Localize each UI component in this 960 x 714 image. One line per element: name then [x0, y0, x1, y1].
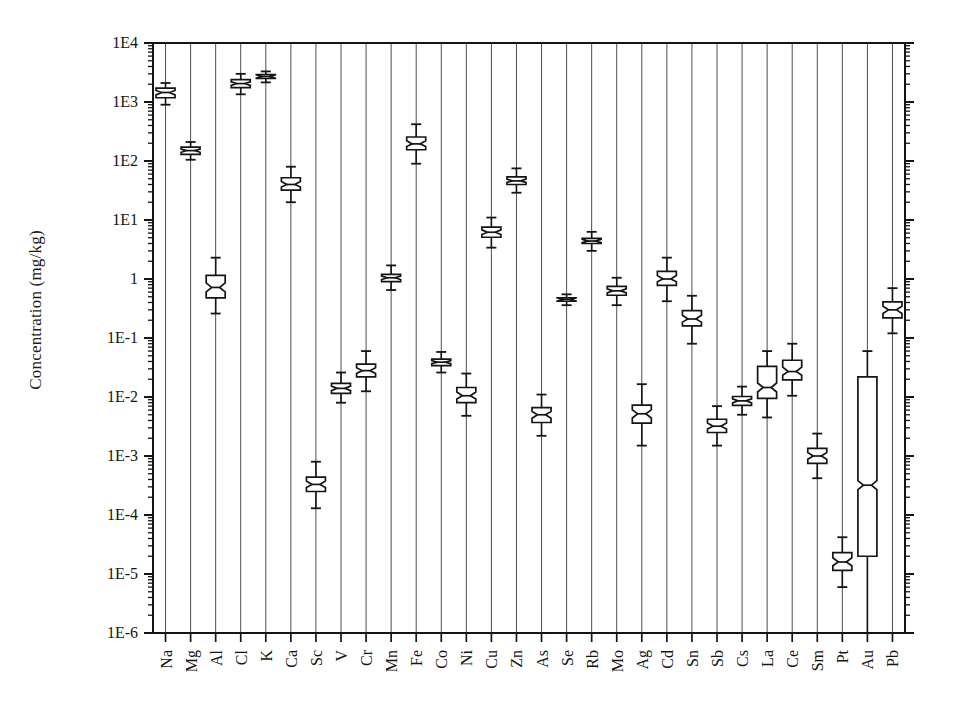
- box-plot-Cl[interactable]: [231, 74, 250, 94]
- box-body: [758, 366, 777, 398]
- y-axis-title: Concentration (mg/kg): [16, 0, 56, 620]
- box-plot-Sc[interactable]: [306, 462, 325, 509]
- x-tick-label-As: As: [534, 650, 551, 668]
- box-plot-Ni[interactable]: [457, 374, 476, 416]
- x-tick-label-Mg: Mg: [183, 650, 201, 672]
- y-tick-label: 1E-4: [107, 506, 138, 523]
- box-plot-Al[interactable]: [206, 258, 225, 314]
- y-tick-label: 1E4: [112, 34, 138, 51]
- box-body: [858, 377, 877, 556]
- y-tick-label: 1E-6: [107, 624, 138, 641]
- y-tick-label: 1E1: [112, 211, 138, 228]
- box-plot-Cs[interactable]: [733, 387, 752, 415]
- x-tick-label-Rb: Rb: [584, 650, 601, 669]
- box-body: [783, 360, 802, 380]
- y-axis-title-text: Concentration (mg/kg): [26, 230, 46, 390]
- x-tick-label-La: La: [759, 650, 776, 667]
- box-plot-Ag[interactable]: [632, 384, 651, 445]
- x-tick-label-Au: Au: [859, 650, 876, 670]
- box-plot-Mo[interactable]: [607, 278, 626, 305]
- box-plot-Cd[interactable]: [657, 258, 676, 302]
- x-tick-label-Cr: Cr: [358, 649, 375, 666]
- box-plot-La[interactable]: [758, 351, 777, 417]
- x-tick-label-Mo: Mo: [609, 650, 626, 672]
- box-plot-Sb[interactable]: [708, 406, 727, 445]
- box-plot-Ca[interactable]: [281, 167, 300, 203]
- grid-lines: [166, 43, 893, 633]
- box-plot-Pt[interactable]: [833, 537, 852, 587]
- x-tick-label-Pt: Pt: [834, 649, 851, 663]
- y-tick-label: 1E-2: [107, 388, 138, 405]
- x-tick-label-Zn: Zn: [508, 650, 525, 668]
- box-plot-Se[interactable]: [557, 294, 576, 305]
- y-axis-ticks: 1E-61E-51E-41E-31E-21E-111E11E21E31E4: [107, 34, 914, 641]
- box-plot-Au[interactable]: [858, 351, 877, 633]
- box-plot-Pb[interactable]: [883, 288, 902, 333]
- x-tick-label-Sm: Sm: [809, 649, 826, 671]
- x-tick-label-K: K: [258, 650, 275, 662]
- y-tick-label: 1E-5: [107, 565, 138, 582]
- box-plot-Cr[interactable]: [357, 351, 376, 391]
- box-plot-Co[interactable]: [432, 352, 451, 373]
- x-tick-label-Cs: Cs: [734, 650, 751, 667]
- x-tick-label-Ag: Ag: [634, 650, 652, 670]
- x-tick-label-Ce: Ce: [784, 650, 801, 668]
- x-tick-label-Sn: Sn: [684, 650, 701, 667]
- x-tick-label-Sb: Sb: [709, 650, 726, 667]
- x-tick-label-Cu: Cu: [483, 650, 500, 669]
- y-tick-label: 1E-3: [107, 447, 138, 464]
- x-tick-label-Ca: Ca: [283, 650, 300, 668]
- x-tick-label-Pb: Pb: [884, 650, 901, 667]
- box-plot-Ce[interactable]: [783, 344, 802, 396]
- x-tick-label-Sc: Sc: [308, 650, 325, 666]
- x-tick-label-Se: Se: [559, 650, 576, 666]
- y-tick-label: 1: [130, 270, 138, 287]
- box-plot-Sn[interactable]: [682, 296, 701, 344]
- y-tick-label: 1E2: [112, 152, 138, 169]
- x-tick-label-Cd: Cd: [659, 650, 676, 669]
- y-tick-label: 1E-1: [107, 329, 138, 346]
- y-tick-label: 1E3: [112, 93, 138, 110]
- box-plot-Na[interactable]: [156, 83, 175, 105]
- box-plot-Zn[interactable]: [507, 168, 526, 192]
- box-plot-Fe[interactable]: [407, 124, 426, 163]
- box-plot-Mn[interactable]: [382, 265, 401, 290]
- x-tick-label-Fe: Fe: [408, 650, 425, 666]
- box-plot-Sm[interactable]: [808, 434, 827, 479]
- box-plot-Rb[interactable]: [582, 232, 601, 251]
- box-plot-K[interactable]: [256, 71, 275, 82]
- x-axis-ticks: NaMgAlClKCaScVCrMnFeCoNiCuZnAsSeRbMoAgCd…: [158, 633, 902, 672]
- x-tick-label-Co: Co: [433, 650, 450, 669]
- box-plot-figure: Concentration (mg/kg) 1E-61E-51E-41E-31E…: [0, 0, 960, 714]
- box-plot-Mg[interactable]: [181, 142, 200, 160]
- box-plot-As[interactable]: [532, 395, 551, 436]
- x-tick-label-Na: Na: [158, 650, 175, 669]
- x-tick-label-Mn: Mn: [383, 650, 400, 672]
- chart-canvas: 1E-61E-51E-41E-31E-21E-111E11E21E31E4NaM…: [0, 0, 960, 714]
- x-tick-label-Al: Al: [208, 649, 225, 666]
- x-tick-label-V: V: [333, 650, 350, 662]
- box-plots: [156, 71, 902, 633]
- box-plot-Cu[interactable]: [482, 218, 501, 248]
- box-plot-V[interactable]: [332, 373, 351, 403]
- x-tick-label-Ni: Ni: [458, 649, 475, 666]
- x-tick-label-Cl: Cl: [233, 649, 250, 665]
